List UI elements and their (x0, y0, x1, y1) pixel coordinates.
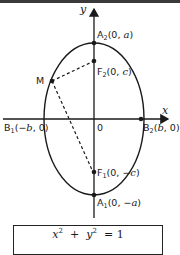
segment-m-f2 (52, 61, 94, 81)
label-f2: F2(0, c) (97, 66, 132, 79)
formula-y-exp: 2 (92, 227, 96, 235)
formula-box: x2 + y2 = 1 (13, 225, 163, 255)
ellipse-equation: x2 + y2 = 1 (14, 227, 162, 241)
segment-m-f1 (52, 81, 93, 172)
origin-label: 0 (97, 122, 103, 133)
label-m: M (36, 75, 44, 86)
label-b2: B2(b, 0) (143, 122, 180, 135)
formula-equals: = 1 (104, 228, 124, 241)
y-axis-label: y (79, 3, 87, 16)
label-a2: A2(0, a) (97, 29, 133, 42)
label-a1: A1(0, −a) (97, 197, 141, 210)
point-b2 (139, 117, 144, 122)
point-f2 (92, 59, 97, 64)
label-b1: B1(−b, 0) (4, 122, 49, 135)
label-f1: F1(0, −c) (97, 167, 140, 180)
formula-x-exp: 2 (59, 227, 63, 235)
point-f1 (92, 170, 97, 175)
formula-plus: + (70, 228, 79, 241)
point-a1 (92, 193, 97, 198)
point-a2 (92, 41, 97, 46)
point-m (50, 79, 55, 84)
x-axis-label: x (162, 104, 169, 117)
